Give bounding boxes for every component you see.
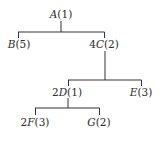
- node-g: G(2): [87, 116, 110, 128]
- tree-diagram: A(1) B(5) 4C(2) 2D(1) E(3) 2F(3) G(2): [0, 0, 163, 146]
- node-f: 2F(3): [21, 116, 50, 128]
- node-c: 4C(2): [89, 38, 119, 50]
- node-b: B(5): [7, 38, 31, 50]
- tree-edges: [18, 21, 142, 115]
- node-e: E(3): [129, 86, 153, 98]
- node-d: 2D(1): [52, 86, 82, 98]
- node-a: A(1): [49, 8, 72, 20]
